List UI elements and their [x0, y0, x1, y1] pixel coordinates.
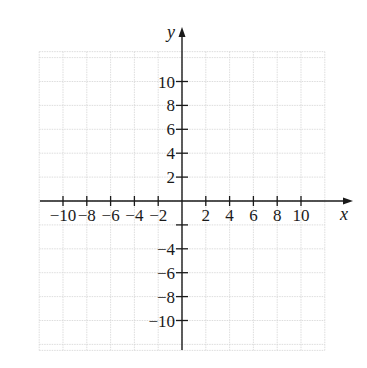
y-tick-label: −6: [157, 264, 175, 283]
y-tick-label: 2: [167, 168, 176, 187]
x-tick-label: 8: [273, 206, 282, 225]
x-axis-label: x: [339, 204, 348, 224]
x-tick-label: −10: [50, 206, 77, 225]
x-tick-label: 10: [293, 206, 310, 225]
x-tick-label: −2: [149, 206, 167, 225]
x-tick-label: −6: [102, 206, 120, 225]
x-tick-label: 2: [202, 206, 211, 225]
y-axis-arrow-icon: [179, 27, 186, 37]
x-tick-label: −8: [78, 206, 96, 225]
coordinate-plane: x y −10−8−6−4−2246810108642−4−6−8−10: [0, 0, 367, 368]
x-tick-label: 4: [225, 206, 234, 225]
y-tick-label: −8: [157, 288, 175, 307]
y-tick-label: 4: [167, 144, 176, 163]
y-tick-label: 10: [158, 73, 175, 92]
y-tick-label: −10: [148, 312, 175, 331]
y-axis-label: y: [165, 22, 175, 42]
y-tick-label: 6: [167, 120, 176, 139]
axes: x y: [40, 22, 353, 350]
y-tick-label: 8: [167, 96, 176, 115]
x-tick-label: −4: [125, 206, 144, 225]
y-tick-label: −4: [157, 240, 176, 259]
x-tick-label: 6: [249, 206, 258, 225]
